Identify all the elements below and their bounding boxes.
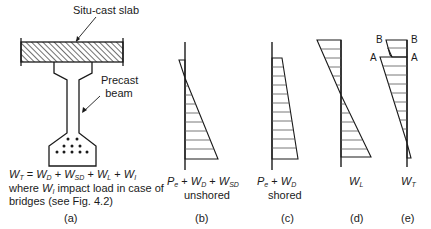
label-wd: W <box>191 175 201 187</box>
point-a-left: A <box>370 51 377 64</box>
note-w: W <box>42 182 52 194</box>
formula-eq: = <box>24 168 37 180</box>
beam-label-line1: Precast <box>101 74 137 87</box>
formula-wt: W <box>9 168 19 180</box>
formula-plus: + <box>111 168 124 180</box>
impact-note-line2: bridges (see Fig. 4.2) <box>9 195 113 208</box>
sublabel-b: unshored <box>184 189 230 202</box>
formula-wd: W <box>36 168 46 180</box>
label-e: WT <box>401 175 416 191</box>
point-a-right: A <box>411 51 418 64</box>
plus: + <box>178 175 191 187</box>
sublabel-c: shored <box>268 189 302 202</box>
stress-diagram-c <box>272 42 298 170</box>
slab-leader-line <box>76 17 96 41</box>
beam-label-line2: beam <box>101 87 137 100</box>
label-wsd: W <box>219 175 229 187</box>
formula-wl: W <box>97 168 107 180</box>
stress-diagram-b <box>179 42 218 170</box>
label-w: W <box>401 175 411 187</box>
label-wd-sub: D <box>291 181 296 188</box>
stress-diagram-d <box>317 40 371 167</box>
label-wd: W <box>281 175 291 187</box>
precast-beam <box>49 62 96 166</box>
prestressing-strands <box>56 138 89 154</box>
point-b-left: B <box>376 33 383 46</box>
label-d: WL <box>349 175 363 191</box>
label-w: W <box>349 175 359 187</box>
formula-wi-sub: I <box>134 174 136 181</box>
situ-cast-slab <box>21 42 123 62</box>
caption-a: (a) <box>64 212 77 225</box>
plus: + <box>206 175 219 187</box>
formula-wsd-sub: SD <box>75 174 85 181</box>
formula-wi: W <box>124 168 134 180</box>
slab-label: Situ-cast slab <box>73 4 139 17</box>
caption-b: (b) <box>195 212 208 225</box>
label-w-sub: T <box>411 181 415 188</box>
label-wsd-sub: SD <box>229 181 239 188</box>
stress-diagram-e <box>380 40 411 167</box>
formula-wsd: W <box>64 168 74 180</box>
point-b-right: B <box>411 33 418 46</box>
label-w-sub: L <box>359 181 363 188</box>
formula-plus: + <box>52 168 65 180</box>
note-post: impact load in case of <box>54 182 163 194</box>
plus: + <box>268 175 281 187</box>
caption-c: (c) <box>281 212 294 225</box>
beam-label: Precast beam <box>101 74 137 100</box>
caption-e: (e) <box>401 212 414 225</box>
caption-d: (d) <box>350 212 363 225</box>
note-pre: where <box>9 182 42 194</box>
formula-plus: + <box>84 168 97 180</box>
